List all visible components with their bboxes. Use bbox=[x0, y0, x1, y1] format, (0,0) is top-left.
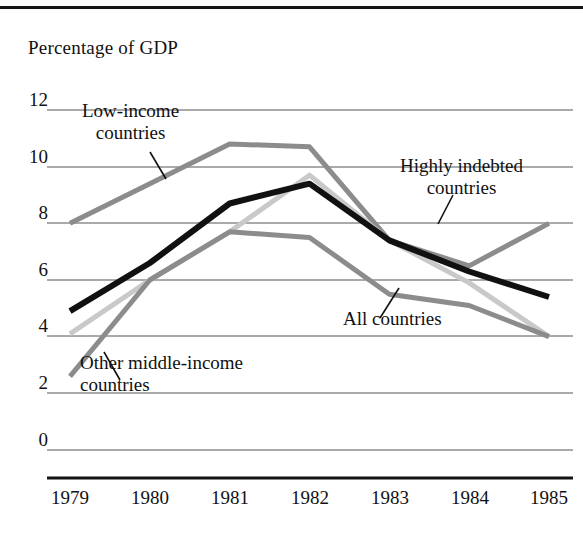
callout-other-middle-line2: countries bbox=[80, 374, 243, 396]
x-tick-1984: 1984 bbox=[440, 487, 500, 509]
callout-low-income-countries: Low-income countries bbox=[82, 100, 179, 145]
plot-area bbox=[0, 0, 583, 542]
x-tick-1983: 1983 bbox=[360, 487, 420, 509]
callout-all-countries: All countries bbox=[343, 308, 442, 330]
callout-low-income-line1: Low-income bbox=[82, 100, 179, 122]
callout-other-middle-income-countries: Other middle-income countries bbox=[80, 352, 243, 397]
x-tick-1985: 1985 bbox=[519, 487, 579, 509]
x-tick-1979: 1979 bbox=[40, 487, 100, 509]
x-tick-1982: 1982 bbox=[280, 487, 340, 509]
chart-figure: Percentage of GDP 12 10 8 6 4 2 0 L bbox=[0, 0, 583, 542]
x-tick-1980: 1980 bbox=[120, 487, 180, 509]
callout-highly-indebted-line1: Highly indebted bbox=[400, 155, 523, 177]
x-tick-1981: 1981 bbox=[200, 487, 260, 509]
callout-highly-indebted-countries: Highly indebted countries bbox=[400, 155, 523, 200]
callout-low-income-line2: countries bbox=[82, 122, 179, 144]
callout-highly-indebted-line2: countries bbox=[400, 177, 523, 199]
callout-other-middle-line1: Other middle-income bbox=[80, 352, 243, 374]
